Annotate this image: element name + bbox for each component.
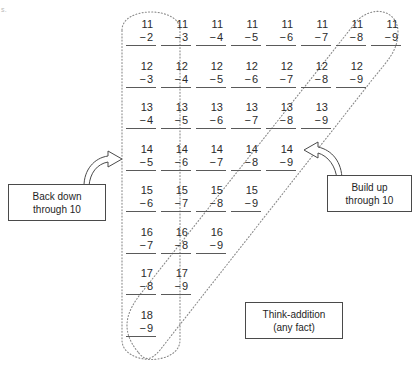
fact-subtrahend: −9	[126, 322, 156, 337]
fact-minuend: 11	[266, 18, 296, 31]
fact-cell: 12−8	[301, 60, 331, 88]
fact-cell: 12−6	[231, 60, 261, 88]
minus-sign: −	[139, 156, 145, 168]
fact-minuend: 15	[196, 184, 226, 197]
callout-think-addition-line1: Think-addition	[252, 308, 336, 321]
fact-subtrahend: −8	[126, 280, 156, 295]
fact-minuend: 12	[266, 60, 296, 73]
minus-sign: −	[244, 197, 250, 209]
fact-subtrahend: −9	[161, 280, 191, 295]
fact-cell: 17−9	[161, 267, 191, 295]
minus-sign: −	[279, 114, 285, 126]
fact-cell: 11−9	[371, 18, 401, 46]
callout-build-up-through-10: Build up through 10	[327, 175, 412, 212]
fact-minuend: 17	[126, 267, 156, 280]
fact-minuend: 11	[161, 18, 191, 31]
fact-cell: 18−9	[126, 309, 156, 337]
fact-subtrahend: −6	[231, 73, 261, 88]
fact-minuend: 11	[336, 18, 366, 31]
fact-cell: 11−5	[231, 18, 261, 46]
fact-cell: 13−7	[231, 101, 261, 129]
fact-minuend: 11	[371, 18, 401, 31]
callout-back-down-line1: Back down	[15, 190, 99, 203]
fact-cell: 14−7	[196, 143, 226, 171]
fact-minuend: 11	[196, 18, 226, 31]
fact-minuend: 18	[126, 309, 156, 322]
fact-cell: 12−7	[266, 60, 296, 88]
fact-cell: 13−4	[126, 101, 156, 129]
fact-cell: 12−5	[196, 60, 226, 88]
fact-subtrahend: −9	[231, 197, 261, 212]
fact-minuend: 13	[161, 101, 191, 114]
minus-sign: −	[209, 197, 215, 209]
fact-minuend: 15	[126, 184, 156, 197]
fact-subtrahend: −9	[301, 114, 331, 129]
fact-minuend: 13	[126, 101, 156, 114]
fact-minuend: 12	[126, 60, 156, 73]
minus-sign: −	[139, 322, 145, 334]
minus-sign: −	[209, 73, 215, 85]
fact-subtrahend: −7	[301, 31, 331, 46]
fact-minuend: 14	[126, 143, 156, 156]
fact-subtrahend: −9	[266, 156, 296, 171]
fact-minuend: 17	[161, 267, 191, 280]
fact-minuend: 12	[301, 60, 331, 73]
minus-sign: −	[279, 31, 285, 43]
callout-back-down-line2: through 10	[15, 203, 99, 216]
minus-sign: −	[139, 73, 145, 85]
minus-sign: −	[349, 31, 355, 43]
fact-cell: 15−6	[126, 184, 156, 212]
fact-cell: 12−3	[126, 60, 156, 88]
fact-subtrahend: −3	[126, 73, 156, 88]
fact-minuend: 15	[231, 184, 261, 197]
fact-cell: 12−4	[161, 60, 191, 88]
minus-sign: −	[139, 31, 145, 43]
fact-cell: 15−8	[196, 184, 226, 212]
fact-cell: 16−9	[196, 226, 226, 254]
fact-minuend: 16	[196, 226, 226, 239]
minus-sign: −	[174, 156, 180, 168]
fact-cell: 15−7	[161, 184, 191, 212]
fact-minuend: 14	[266, 143, 296, 156]
minus-sign: −	[314, 73, 320, 85]
fact-cell: 14−8	[231, 143, 261, 171]
fact-minuend: 16	[161, 226, 191, 239]
callout-build-up-line2: through 10	[334, 194, 405, 207]
fact-subtrahend: −2	[126, 31, 156, 46]
fact-subtrahend: −8	[336, 31, 366, 46]
fact-subtrahend: −9	[336, 73, 366, 88]
callout-think-addition-line2: (any fact)	[252, 321, 336, 334]
fact-minuend: 13	[266, 101, 296, 114]
minus-sign: −	[279, 156, 285, 168]
fact-minuend: 12	[336, 60, 366, 73]
fact-minuend: 16	[126, 226, 156, 239]
fact-subtrahend: −8	[161, 239, 191, 254]
fact-cell: 13−5	[161, 101, 191, 129]
fact-minuend: 11	[126, 18, 156, 31]
fact-cell: 11−6	[266, 18, 296, 46]
fact-cell: 15−9	[231, 184, 261, 212]
fact-cell: 12−9	[336, 60, 366, 88]
fact-strategy-chart: s. 11−211−311−411−511−611−711−811−912−31…	[0, 0, 417, 381]
minus-sign: −	[139, 197, 145, 209]
minus-sign: −	[174, 280, 180, 292]
minus-sign: −	[314, 114, 320, 126]
fact-subtrahend: −8	[231, 156, 261, 171]
fact-subtrahend: −5	[196, 73, 226, 88]
fact-cell: 16−8	[161, 226, 191, 254]
fact-subtrahend: −4	[161, 73, 191, 88]
minus-sign: −	[174, 31, 180, 43]
minus-sign: −	[244, 114, 250, 126]
callout-think-addition: Think-addition (any fact)	[245, 302, 343, 339]
fact-subtrahend: −7	[196, 156, 226, 171]
fact-subtrahend: −6	[161, 156, 191, 171]
minus-sign: −	[209, 114, 215, 126]
fact-cell: 13−8	[266, 101, 296, 129]
fact-subtrahend: −4	[126, 114, 156, 129]
callout-back-down-through-10: Back down through 10	[8, 184, 106, 221]
fact-cell: 11−4	[196, 18, 226, 46]
fact-subtrahend: −4	[196, 31, 226, 46]
fact-subtrahend: −6	[266, 31, 296, 46]
fact-minuend: 12	[196, 60, 226, 73]
fact-subtrahend: −9	[196, 239, 226, 254]
